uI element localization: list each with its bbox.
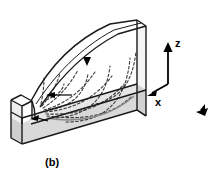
coordinate-axes	[152, 49, 168, 93]
figure-panel-b: z x (b)	[0, 0, 216, 174]
right-margin-arrowhead	[196, 104, 208, 116]
x-axis-label: x	[155, 96, 162, 108]
panel-label: (b)	[45, 156, 59, 168]
arrow-up-icon	[163, 42, 172, 52]
z-axis-label: z	[175, 37, 181, 49]
block-diagram-svg: z x (b)	[0, 0, 216, 174]
